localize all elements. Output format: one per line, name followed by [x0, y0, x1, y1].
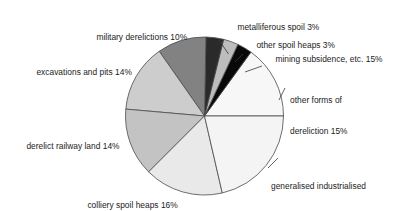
slice-label-military-derelictions: military derelictions 10%: [87, 22, 187, 53]
slice-label-text-line2: dereliction 15%: [290, 126, 348, 136]
slice-label-excavations-and-pits: excavations and pits 14%: [27, 57, 132, 88]
slice-label-text-line1: generalised industrialised: [271, 181, 366, 191]
slice-label-mining-subsidence: mining subsidence, etc. 15%: [266, 44, 383, 75]
slice-label-text: military derelictions 10%: [96, 32, 187, 42]
slice-label-text: colliery spoil heaps 16%: [87, 200, 177, 210]
slice-label-generalised-industrialised-dereliction: generalised industrialised dereliction 2…: [271, 160, 366, 211]
slice-label-text: mining subsidence, etc. 15%: [275, 54, 382, 64]
slice-label-derelict-railway-land: derelict railway land 14%: [17, 131, 120, 162]
slice-label-colliery-spoil-heaps: colliery spoil heaps 16%: [78, 190, 178, 211]
pie-chart: other forms of dereliction 15%mining sub…: [0, 0, 408, 211]
slice-label-text: derelict railway land 14%: [26, 141, 119, 151]
slice-label-text: excavations and pits 14%: [36, 67, 131, 77]
slice-label-text-line1: other forms of: [290, 95, 348, 105]
slice-label-other-forms-of-dereliction: other forms of dereliction 15%: [290, 74, 348, 157]
